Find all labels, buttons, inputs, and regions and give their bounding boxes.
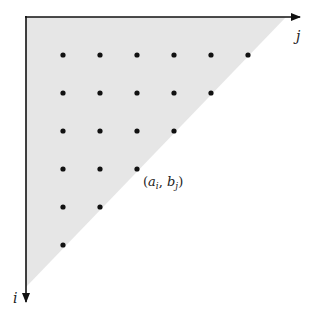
grid-point — [134, 128, 139, 133]
j-axis-label: j — [293, 28, 301, 44]
grid-point — [134, 90, 139, 95]
i-axis-label: i — [13, 290, 17, 306]
grid-point — [171, 52, 176, 57]
grid-point — [60, 90, 65, 95]
grid-point — [60, 52, 65, 57]
grid-point — [245, 52, 250, 57]
grid-point — [60, 166, 65, 171]
grid-point — [97, 52, 102, 57]
grid-point — [134, 52, 139, 57]
grid-point — [97, 90, 102, 95]
grid-point — [60, 128, 65, 133]
grid-point — [171, 128, 176, 133]
grid-point — [97, 204, 102, 209]
grid-point — [134, 166, 139, 171]
grid-point — [171, 90, 176, 95]
point-label: (ai, bj) — [143, 174, 183, 191]
grid-point — [97, 166, 102, 171]
grid-point — [208, 90, 213, 95]
grid-point — [60, 242, 65, 247]
grid-point — [97, 128, 102, 133]
grid-point — [208, 52, 213, 57]
triangular-grid-diagram: j i (ai, bj) — [0, 0, 322, 331]
grid-point — [60, 204, 65, 209]
